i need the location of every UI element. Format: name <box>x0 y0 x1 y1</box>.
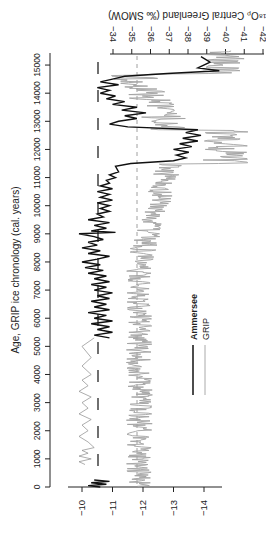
age-tick-label: 15000 <box>32 53 42 77</box>
age-tick-label: 12000 <box>32 137 42 161</box>
age-tick-label: 1000 <box>32 449 42 468</box>
age-tick-label: 8000 <box>32 252 42 271</box>
ammersee-axis: −10−11−12−13−14 <box>68 487 222 516</box>
age-tick-label: 10000 <box>32 194 42 218</box>
age-tick-label: 14000 <box>32 81 42 105</box>
ammersee-lowres-series <box>79 338 94 465</box>
age-tick-label: 4000 <box>32 365 42 384</box>
grip-tick-label: −35 <box>127 26 138 42</box>
age-axis-title: Age, GRIP ice chronology (cal. years) <box>10 186 21 353</box>
age-tick-label: 2000 <box>32 421 42 440</box>
grip-tick-label: −42 <box>258 26 266 42</box>
grip-series <box>112 51 248 487</box>
grip-tick-label: −37 <box>164 26 175 42</box>
ammersee-tick-label: −10 <box>76 500 87 516</box>
ammersee-tick-label: −11 <box>107 500 118 515</box>
grip-tick-label: −41 <box>239 26 250 42</box>
age-tick-label: 9000 <box>32 224 42 243</box>
legend: Ammersee GRIP <box>189 294 211 395</box>
age-tick-label: 6000 <box>32 308 42 327</box>
age-axis: 0100020003000400050006000700080009000100… <box>10 53 50 489</box>
grip-tick-label: −36 <box>146 26 157 42</box>
grip-axis: −34−35−36−37−38−39−40−41−42 δ¹⁸Oₚ Centra… <box>108 10 266 54</box>
age-tick-label: 0 <box>32 484 42 489</box>
ammersee-tick-label: −13 <box>168 500 179 516</box>
ammersee-tick-label: −12 <box>137 500 148 516</box>
age-tick-label: 11000 <box>32 166 42 189</box>
grip-axis-title: δ¹⁸Oₚ Central Greenland (‰ SMOW) <box>108 10 266 21</box>
ammersee-series <box>79 57 219 487</box>
grip-tick-label: −40 <box>221 26 232 42</box>
legend-grip-label: GRIP <box>201 318 211 340</box>
age-tick-label: 13000 <box>32 109 42 133</box>
grip-tick-label: −34 <box>108 26 119 42</box>
ammersee-tick-label: −14 <box>198 500 209 516</box>
age-tick-label: 5000 <box>32 337 42 356</box>
grip-tick-label: −39 <box>202 26 213 42</box>
legend-ammersee-label: Ammersee <box>189 294 199 340</box>
age-tick-label: 3000 <box>32 393 42 412</box>
rotated-chart: 0100020003000400050006000700080009000100… <box>0 0 266 549</box>
age-tick-label: 7000 <box>32 280 42 299</box>
grip-tick-label: −38 <box>183 26 194 42</box>
